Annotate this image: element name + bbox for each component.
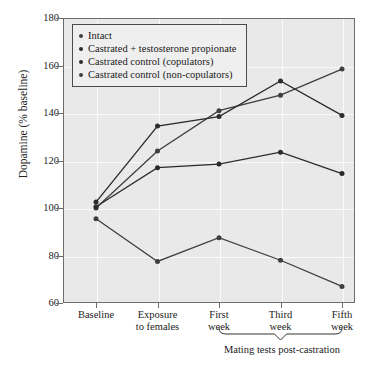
bracket-path xyxy=(219,328,342,340)
mating-tests-bracket xyxy=(0,0,368,365)
chart-figure: Dopamine (% baseline) 608010012014016018… xyxy=(0,0,368,365)
bracket-label: Mating tests post-castration xyxy=(196,344,368,355)
